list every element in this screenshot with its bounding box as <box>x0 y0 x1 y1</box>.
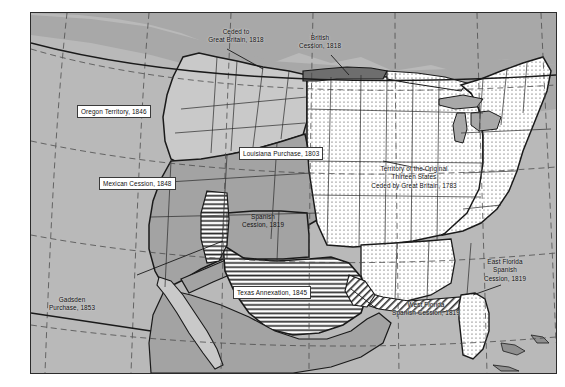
label-original-thirteen-states: Territory of the Original Thirteen State… <box>351 165 477 190</box>
caribbean-islands <box>493 335 549 371</box>
label-british-cession-1818: British Cession, 1818 <box>289 34 351 51</box>
label-gadsden-purchase-1853: Gadsden Purchase, 1853 <box>37 296 107 313</box>
label-oregon-territory-1846: Oregon Territory, 1846 <box>77 105 151 118</box>
label-west-florida-spanish-cession-1819: West Florida Spanish Cession, 1819 <box>379 301 473 318</box>
territorial-acquisitions-map: Ceded to Great Britain, 1818 British Ces… <box>0 0 565 387</box>
map-frame: Ceded to Great Britain, 1818 British Ces… <box>30 12 557 374</box>
label-louisiana-purchase-1803: Louisiana Purchase, 1803 <box>239 147 323 160</box>
label-spanish-cession-1819: Spanish Cession, 1819 <box>235 213 291 230</box>
gulf-coast-dotted <box>361 239 455 303</box>
label-ceded-to-great-britain-1818: Ceded to Great Britain, 1818 <box>194 28 278 45</box>
label-texas-annexation-1845: Texas Annexation, 1845 <box>233 286 311 299</box>
label-mexican-cession-1848: Mexican Cession, 1848 <box>99 177 176 190</box>
label-east-florida-spanish-cession-1819: East Florida Spanish Cession, 1819 <box>475 258 535 283</box>
map-geometry <box>31 13 556 373</box>
